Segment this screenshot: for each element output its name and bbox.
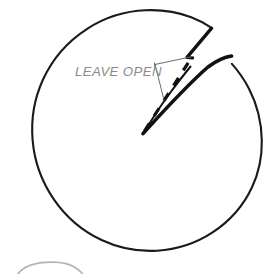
faint-bottom-arc-group — [18, 262, 83, 274]
faint-partial-arc — [18, 262, 83, 274]
wedge-upper-arm — [187, 28, 212, 58]
circle-leave-open-drawing: LEAVE OPEN — [0, 0, 273, 274]
diagram-canvas: LEAVE OPEN — [0, 0, 273, 274]
wedge-notch-group — [143, 28, 232, 134]
leave-open-label: LEAVE OPEN — [75, 64, 162, 79]
